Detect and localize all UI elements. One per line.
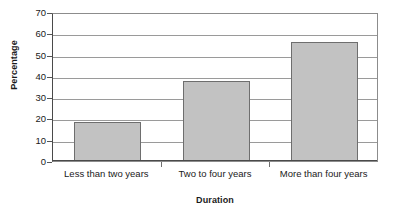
bar [291, 42, 358, 161]
x-axis-tick-label: Two to four years [165, 168, 266, 180]
bar [74, 122, 141, 161]
y-axis-tick-label: 10 [22, 136, 46, 146]
bars-layer [53, 14, 377, 161]
y-axis-tick-mark [47, 162, 52, 163]
x-axis-tick-labels: Less than two yearsTwo to four yearsMore… [52, 168, 378, 196]
y-axis-title: Percentage [9, 25, 19, 105]
y-axis-tick-label: 20 [22, 114, 46, 124]
y-axis-tick-labels: 70 60 50 40 30 20 10 0 [22, 13, 46, 162]
plot-area [52, 13, 378, 162]
bar-chart: Percentage 70 60 50 40 30 20 10 0 Less t… [0, 0, 395, 220]
x-axis-tick-label: Less than two years [56, 168, 157, 180]
y-axis-tick-label: 40 [22, 72, 46, 82]
category-tick-mark [269, 162, 270, 167]
y-axis-tick-label: 50 [22, 51, 46, 61]
y-axis-tick-label: 0 [22, 157, 46, 167]
y-axis-tick-label: 60 [22, 29, 46, 39]
x-axis-tick-label: More than four years [273, 168, 374, 180]
bar [183, 81, 250, 161]
y-axis-tick-label: 30 [22, 93, 46, 103]
y-axis-tick-label: 70 [22, 8, 46, 18]
x-axis-title: Duration [52, 195, 378, 205]
category-tick-mark [161, 162, 162, 167]
x-axis-line [53, 160, 377, 161]
